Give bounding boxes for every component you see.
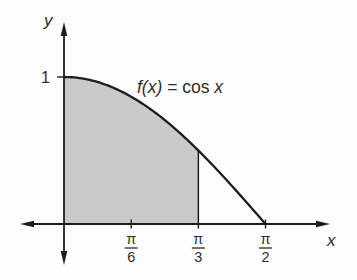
y-tick-label-one: 1 [41,69,50,86]
x-tick-numerator: π [126,231,136,247]
x-tick-denominator: 3 [194,249,202,265]
curve-equation-label: f(x) = cos x [137,77,224,97]
x-axis-label: x [326,231,336,250]
x-tick-numerator: π [193,231,203,247]
curve-label-cos: cos [182,77,209,97]
y-axis-arrowhead-bottom [61,251,68,265]
curve-label-equals: = [162,77,182,97]
x-tick-denominator: 6 [127,249,135,265]
y-axis-arrowhead-top [61,22,68,36]
curve-label-var: x [209,77,224,97]
curve-label-fx: f(x) [137,77,162,97]
x-axis-arrowhead-right [316,221,330,228]
x-tick-numerator: π [261,231,271,247]
x-axis-arrowhead-left [20,221,34,228]
x-tick-denominator: 2 [261,249,269,265]
shaded-region-under-curve [64,77,198,224]
y-axis-label: y [43,11,54,30]
cos-curve-figure: 1 π6π3π2 y x f(x) = cos x [0,0,357,280]
